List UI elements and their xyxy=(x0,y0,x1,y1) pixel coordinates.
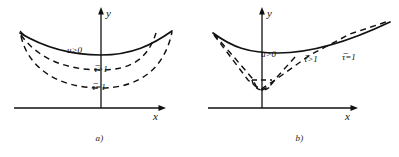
panel-b-caption: b) xyxy=(200,133,399,143)
dashed-outer-curve-a xyxy=(21,32,172,88)
panel-b-plot: y x u>0 τ̅>1 τ̅=1 xyxy=(200,0,399,133)
label-tau-equal-a: τ̅=1 xyxy=(92,82,106,92)
panel-a-caption: a) xyxy=(0,133,199,143)
label-region-a: u>0 xyxy=(67,45,83,55)
y-axis-arrowhead xyxy=(259,7,265,15)
y-axis-arrowhead xyxy=(98,7,104,15)
solid-boundary-curve-b xyxy=(213,22,390,53)
y-axis-label: y xyxy=(105,7,111,19)
dashed-outer-curve-b xyxy=(214,22,386,90)
y-axis xyxy=(98,7,104,108)
label-tau-equal-b: τ̅=1 xyxy=(342,52,356,62)
label-tau-greater-a: τ̅>1 xyxy=(94,64,108,74)
dashed-inner-curve-a xyxy=(21,33,156,70)
label-tau-greater-b: τ̅>1 xyxy=(304,54,318,64)
figure-panel-b: y x u>0 τ̅>1 τ̅=1 b) xyxy=(200,0,399,157)
x-axis-arrowhead xyxy=(351,105,359,111)
figure-root: y x u>0 τ̅>1 τ̅=1 a) xyxy=(0,0,399,157)
figure-panel-a: y x u>0 τ̅>1 τ̅=1 a) xyxy=(0,0,199,157)
panel-a-plot: y x u>0 τ̅>1 τ̅=1 xyxy=(0,0,199,133)
x-axis-label: x xyxy=(344,110,350,122)
x-axis-arrowhead xyxy=(159,105,167,111)
x-axis-label: x xyxy=(152,110,158,122)
y-axis-label: y xyxy=(266,7,272,19)
solid-boundary-curve-a xyxy=(20,31,172,55)
label-region-b: u>0 xyxy=(261,49,277,59)
x-axis xyxy=(14,105,166,111)
x-axis xyxy=(208,105,358,111)
